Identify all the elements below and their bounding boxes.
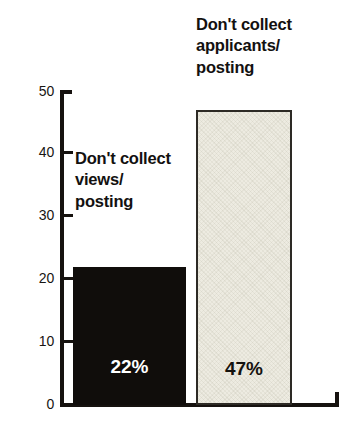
bar-value-label-0: 22% (73, 357, 186, 376)
bar-dont-collect-applicants-posting: 47% (196, 110, 292, 405)
y-axis-line (60, 90, 64, 407)
y-axis-label-0: 0 (0, 397, 54, 411)
y-axis-label-50-wrap: 50 (0, 84, 54, 98)
bar-dont-collect-views-posting: 22% (73, 267, 186, 405)
x-axis-right-cap (335, 392, 339, 407)
y-axis-tick-20 (64, 277, 73, 280)
y-axis-label-10: 10 (0, 334, 54, 348)
y-axis-label-40-wrap: 40 (0, 145, 54, 159)
y-axis-tick-40 (64, 151, 73, 154)
y-axis-tick-10 (64, 340, 73, 343)
y-axis-label-0-wrap: 0 (0, 397, 54, 411)
y-axis-label-30: 30 (0, 208, 54, 222)
bar-value-label-1: 47% (198, 359, 290, 378)
y-axis-label-30-wrap: 30 (0, 208, 54, 222)
y-axis-label-10-wrap: 10 (0, 334, 54, 348)
y-axis-label-50: 50 (0, 84, 54, 98)
y-axis-label-20: 20 (0, 271, 54, 285)
category-label-applicants-posting: Don't collect applicants/ posting (196, 14, 356, 78)
bar-chart: 50 40 30 20 10 0 22% 47% Don't collect v… (0, 0, 359, 434)
category-label-views-posting: Don't collect views/ posting (75, 148, 180, 212)
y-axis-label-40: 40 (0, 145, 54, 159)
y-axis-label-20-wrap: 20 (0, 271, 54, 285)
y-axis-top-cap (60, 90, 72, 94)
y-axis-tick-30 (64, 214, 73, 217)
